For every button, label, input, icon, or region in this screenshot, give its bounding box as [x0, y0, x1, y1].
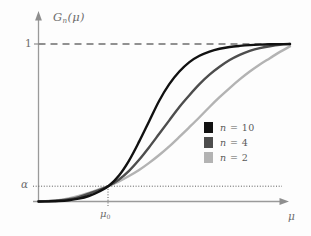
- legend-equation: = 10: [227, 122, 255, 133]
- legend-swatch-n4: [204, 137, 213, 148]
- legend-equation: = 4: [227, 137, 249, 148]
- legend-item: n = 2: [204, 150, 274, 164]
- chart-canvas: [0, 0, 311, 236]
- x-axis-title: μ: [288, 211, 295, 222]
- legend: n = 10 n = 4 n = 2: [204, 120, 274, 165]
- y-axis: [35, 11, 42, 202]
- x-tick-label-symbol: μ: [100, 208, 107, 219]
- y-tick-label-alpha: α: [21, 179, 28, 190]
- legend-label-n10: n = 10: [220, 122, 255, 133]
- y-axis-title: Gn(μ): [53, 12, 85, 24]
- legend-label-n2: n = 2: [220, 152, 248, 163]
- y-axis-title-argument: (μ): [67, 10, 84, 24]
- legend-item: n = 10: [204, 120, 274, 134]
- legend-swatch-n2: [204, 152, 213, 163]
- y-tick-label-one: 1: [25, 38, 32, 49]
- y-axis-title-symbol: G: [53, 10, 63, 24]
- x-tick-label-mu-zero: μ0: [100, 209, 110, 219]
- x-tick-label-subscript: 0: [107, 213, 111, 220]
- legend-equation: = 2: [227, 152, 249, 163]
- figure-container: Gn(μ) 1 α μ0 μ n = 10 n = 4 n = 2: [0, 0, 311, 236]
- legend-swatch-n10: [204, 122, 213, 133]
- legend-label-n4: n = 4: [220, 137, 248, 148]
- y-axis-title-subscript: n: [63, 16, 68, 25]
- legend-item: n = 4: [204, 135, 274, 149]
